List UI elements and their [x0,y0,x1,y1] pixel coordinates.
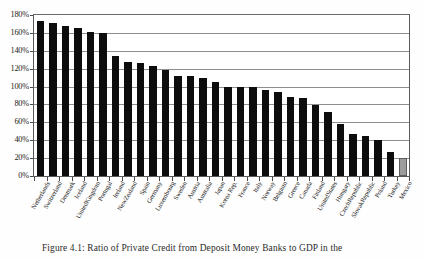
bar [87,32,95,176]
bar-slot [384,15,397,176]
x-axis-tick-label: Italy [251,180,263,194]
bar-slot [84,15,97,176]
bar [337,124,345,176]
figure-caption: Figure 4.1: Ratio of Private Credit from… [42,243,387,254]
bar-slot [359,15,372,176]
bar [187,76,195,176]
y-axis-tick-label: 60% [14,118,29,126]
bar [162,70,170,176]
bar-slot [397,15,410,176]
bar-slot [297,15,310,176]
bar-slot [309,15,322,176]
bar [149,66,157,176]
bar [287,97,295,176]
bar-slot [209,15,222,176]
bar-slot [197,15,210,176]
bar-slot [97,15,110,176]
bar-slot [284,15,297,176]
bar-slot [272,15,285,176]
y-axis-tick-label: 20% [14,154,29,162]
bar [224,87,232,176]
bar-slot [109,15,122,176]
y-axis-tick-label: 0% [18,172,29,180]
bar [312,105,320,176]
bar-slot [334,15,347,176]
bar [137,63,145,176]
bar-slot [147,15,160,176]
bar [174,76,182,176]
bar-slot [259,15,272,176]
bar [49,23,57,176]
bar [124,62,132,176]
figure-bar-chart: 0%20%40%60%80%100%120%140%160%180% Nethe… [0,0,425,259]
bar [349,134,357,176]
bar-slot [372,15,385,176]
bar [387,152,395,176]
bar-slot [59,15,72,176]
y-axis-tick-label: 120% [10,65,29,73]
bar [399,158,407,176]
bar-slot [322,15,335,176]
bar-slot [159,15,172,176]
bar-slot [172,15,185,176]
bar-slot [234,15,247,176]
bar [37,21,45,176]
bar-slot [134,15,147,176]
bar [212,82,220,176]
bar [237,87,245,176]
bar-slot [347,15,360,176]
bar [99,33,107,176]
y-axis-tick-label: 40% [14,136,29,144]
bar-slot [47,15,60,176]
y-axis-tick-label: 100% [10,83,29,91]
bar-slot [72,15,85,176]
bar [299,98,307,176]
bar-series [34,15,409,176]
x-axis-labels: NetherlandsSwitzerlandDenmarkIcelandUnit… [34,180,409,238]
bar [274,92,282,176]
bar [362,136,370,176]
bar-slot [184,15,197,176]
y-axis: 0%20%40%60%80%100%120%140%160%180% [0,14,33,177]
bar [249,87,257,176]
bar-slot [222,15,235,176]
bar [112,56,120,176]
y-axis-tick-label: 180% [10,11,29,19]
bar [262,90,270,176]
y-axis-tick-label: 160% [10,29,29,37]
bar-slot [122,15,135,176]
bar [324,112,332,176]
y-axis-tick-label: 80% [14,100,29,108]
bar [374,140,382,176]
bar [74,28,82,176]
bar [62,26,70,176]
y-axis-tick-label: 140% [10,47,29,55]
bar-slot [34,15,47,176]
bar [199,78,207,176]
bar-slot [247,15,260,176]
